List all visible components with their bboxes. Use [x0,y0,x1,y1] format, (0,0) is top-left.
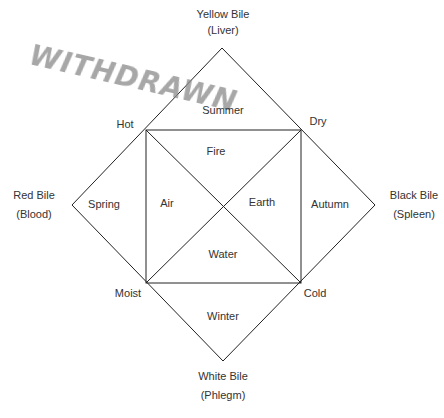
season-winter: Winter [207,310,239,323]
quality-moist: Moist [115,287,141,300]
season-spring: Spring [88,198,120,211]
humor-top-name: Yellow Bile [197,8,250,21]
element-air: Air [160,197,173,210]
humor-right-organ: (Spleen) [390,208,438,221]
quality-cold: Cold [304,287,327,300]
humor-left-organ: (Blood) [13,208,55,221]
humor-bottom: White Bile (Phlegm) [198,370,248,402]
element-earth: Earth [249,196,275,209]
humor-left: Red Bile (Blood) [13,189,55,221]
humor-bottom-name: White Bile [198,370,248,383]
humor-top-organ: (Liver) [197,24,250,37]
humor-top: Yellow Bile (Liver) [197,8,250,37]
humor-right-name: Black Bile [390,189,438,202]
quality-dry: Dry [309,115,326,128]
element-water: Water [209,248,238,261]
humor-bottom-organ: (Phlegm) [198,389,248,402]
season-summer: Summer [202,104,244,117]
humor-left-name: Red Bile [13,189,55,202]
humor-right: Black Bile (Spleen) [390,189,438,221]
season-autumn: Autumn [311,198,349,211]
element-fire: Fire [207,145,226,158]
quality-hot: Hot [116,118,133,131]
